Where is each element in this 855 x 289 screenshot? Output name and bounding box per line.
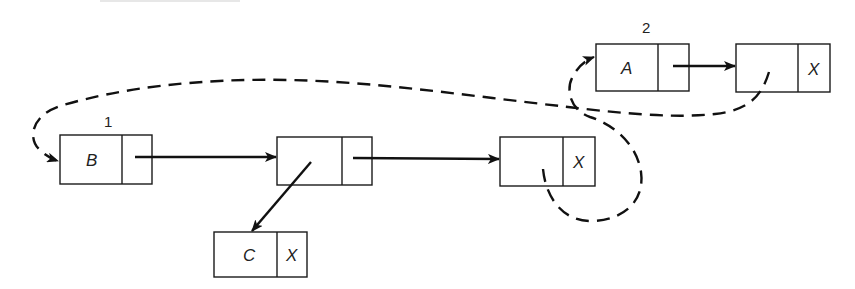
node-a: A	[596, 44, 689, 91]
list-label-2: 2	[642, 19, 650, 36]
list-label-1: 1	[104, 113, 112, 130]
node-c-data: C	[243, 246, 256, 265]
node-a-box	[596, 44, 689, 91]
node-c-null-marker: X	[285, 246, 298, 265]
node-c: C X	[214, 232, 307, 277]
node-tail1: X	[500, 137, 595, 186]
node-tail1-null-marker: X	[572, 153, 585, 172]
node-mid	[277, 137, 372, 185]
node-b-data: B	[86, 151, 97, 170]
linked-list-diagram: 1 2 B X C X A X	[0, 0, 855, 289]
node-b: B	[60, 135, 152, 184]
node-mid-box	[277, 137, 372, 185]
node-tail2: X	[736, 44, 830, 92]
node-tail2-null-marker: X	[807, 60, 820, 79]
arrow-mid-to-tail1	[353, 158, 499, 159]
node-b-box	[60, 135, 152, 184]
node-a-data: A	[620, 59, 632, 78]
